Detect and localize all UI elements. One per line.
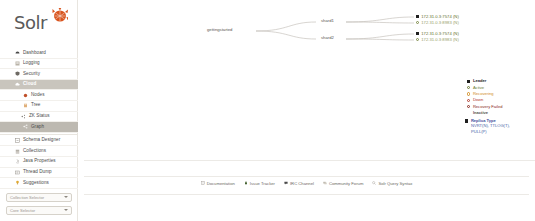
active-marker-icon: [416, 38, 419, 41]
zk-status-icon: [21, 114, 26, 119]
sidebar-item-security[interactable]: Security: [0, 69, 78, 80]
sidebar-item-label: Thread Dump: [23, 170, 52, 175]
legend-label: Recovery Failed: [473, 105, 503, 109]
replica-host-label: 172.31.0.3:7574 (N): [421, 32, 459, 36]
menu-divider: [0, 134, 78, 135]
active-marker-icon: [416, 21, 419, 24]
schema-designer-icon: [15, 138, 20, 143]
dashboard-icon: [15, 50, 20, 55]
replica-host-label: 172.31.0.3:8983 (N): [421, 38, 459, 42]
replica-node[interactable]: 172.31.0.3:8983 (N): [416, 38, 459, 42]
sidebar-item-schema-designer[interactable]: Schema Designer: [0, 136, 78, 147]
footer-link-label: Documentation: [207, 181, 235, 186]
graph-icon: [23, 124, 28, 129]
leader-marker-icon: [416, 32, 419, 35]
java-properties-icon: [15, 159, 20, 164]
legend-label: Down: [473, 98, 483, 102]
sidebar-item-logging[interactable]: Logging: [0, 59, 78, 70]
replica-type-legend: Replica Type NVRT(N), TTLOG(T), PULL(P): [465, 119, 523, 135]
forum-icon: [323, 181, 327, 185]
sidebar-item-label: Java Properties: [23, 159, 56, 164]
replica-node[interactable]: 172.31.0.3:7574 (N): [416, 32, 459, 36]
footer-links: Documentation Issue Tracker IRC Channel …: [78, 177, 535, 189]
query-icon: [372, 181, 376, 185]
collections-icon: [15, 149, 20, 154]
sidebar-item-label: Security: [23, 72, 40, 77]
legend-label: Leader: [473, 79, 486, 83]
sidebar-item-label: Graph: [31, 125, 44, 130]
chat-icon: [284, 181, 288, 185]
inactive-swatch-icon: [467, 111, 470, 114]
sidebar-item-nodes[interactable]: Nodes: [0, 90, 78, 101]
sidebar-item-label: Collections: [23, 149, 46, 154]
sidebar: Solr Dashboard: [0, 0, 78, 221]
recovery-failed-swatch-icon: [467, 105, 470, 108]
tree-icon: [23, 103, 28, 108]
replica-node[interactable]: 172.31.0.3:8983 (N): [416, 21, 459, 25]
status-legend: Leader Active Recovering Down Recovery F…: [467, 78, 523, 116]
security-shield-icon: [15, 71, 20, 76]
sidebar-menu: Dashboard Logging Security Cloud Nodes T: [0, 48, 78, 215]
sidebar-item-cloud[interactable]: Cloud: [0, 80, 78, 91]
sidebar-item-label: Suggestions: [23, 181, 49, 186]
sidebar-item-label: Logging: [23, 61, 40, 66]
chevron-down-icon: [64, 196, 68, 198]
footer-link-label: Issue Tracker: [250, 181, 275, 186]
sidebar-item-zk-status[interactable]: ZK Status: [0, 112, 78, 123]
leader-marker-icon: [416, 15, 419, 18]
solr-logo[interactable]: Solr: [14, 6, 76, 36]
sidebar-item-suggestions[interactable]: Suggestions: [0, 178, 78, 189]
footer-link-documentation[interactable]: Documentation: [201, 181, 235, 186]
replica-host-label: 172.31.0.3:8983 (N): [421, 21, 459, 25]
core-selector[interactable]: Core Selector: [6, 206, 72, 215]
sidebar-item-label: Nodes: [31, 93, 45, 98]
collection-selector-label: Collection Selector: [10, 195, 44, 200]
solr-sunburst-icon: [51, 8, 68, 23]
nodes-icon: [23, 93, 28, 98]
footer-link-label: Community Forum: [329, 181, 363, 186]
sidebar-item-label: Cloud: [23, 82, 36, 87]
cloud-icon: [15, 82, 20, 87]
footer-link-community-forum[interactable]: Community Forum: [323, 181, 363, 186]
sidebar-item-label: Schema Designer: [23, 138, 60, 143]
shard-node-label[interactable]: shard2: [320, 36, 335, 40]
sidebar-item-tree[interactable]: Tree: [0, 101, 78, 112]
down-swatch-icon: [467, 99, 470, 102]
logo-text: Solr: [14, 12, 47, 33]
solr-admin-window: Solr Dashboard: [0, 0, 535, 221]
footer-link-label: Solr Query Syntax: [378, 181, 412, 186]
footer-link-irc-channel[interactable]: IRC Channel: [284, 181, 314, 186]
sidebar-item-collections[interactable]: Collections: [0, 146, 78, 157]
sidebar-item-graph[interactable]: Graph: [0, 122, 78, 133]
bottom-divider: [84, 194, 529, 195]
footer-link-label: IRC Channel: [290, 181, 314, 186]
replica-host-label: 172.31.0.3:7574 (N): [421, 15, 459, 19]
footer-link-solr-query-syntax[interactable]: Solr Query Syntax: [372, 181, 412, 186]
legend-entry-inactive: Inactive: [467, 110, 523, 116]
thread-dump-icon: [15, 170, 20, 175]
bug-icon: [244, 181, 248, 185]
replica-type-list-line2: PULL(P): [465, 129, 523, 135]
suggestions-lightbulb-icon: [15, 180, 20, 185]
sidebar-item-java-properties[interactable]: Java Properties: [0, 157, 78, 168]
logging-icon: [15, 61, 20, 66]
core-selector-label: Core Selector: [10, 208, 35, 213]
legend-label: Recovering: [473, 92, 494, 96]
sidebar-item-dashboard[interactable]: Dashboard: [0, 48, 78, 59]
shard-node-label[interactable]: shard1: [320, 19, 335, 23]
replica-node[interactable]: 172.31.0.3:7574 (N): [416, 15, 459, 19]
sidebar-item-thread-dump[interactable]: Thread Dump: [0, 168, 78, 179]
recovering-swatch-icon: [467, 92, 470, 95]
active-swatch-icon: [467, 86, 470, 89]
footer-link-issue-tracker[interactable]: Issue Tracker: [244, 181, 275, 186]
leader-swatch-icon: [467, 80, 470, 83]
book-icon: [201, 181, 205, 185]
sidebar-item-label: Dashboard: [23, 51, 46, 56]
collection-selector[interactable]: Collection Selector: [6, 193, 72, 202]
replica-type-swatch-icon: [465, 119, 468, 122]
collection-node-label[interactable]: gettingstarted: [206, 28, 233, 32]
legend-label: Inactive: [473, 111, 488, 115]
chevron-down-icon: [64, 209, 68, 211]
sidebar-item-label: Tree: [31, 103, 40, 108]
sidebar-item-label: ZK Status: [29, 114, 50, 119]
